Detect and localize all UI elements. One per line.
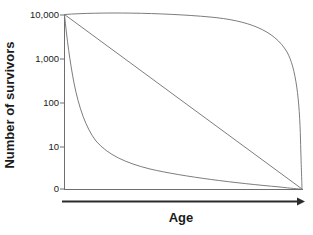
chart-canvas: Number of survivors 10,000 1,000 100 10 … — [0, 0, 313, 235]
y-axis-ticks — [60, 15, 64, 189]
y-tick-label-0: 0 — [54, 183, 59, 194]
y-tick-label-10: 10 — [48, 141, 59, 152]
arrow-head-icon — [297, 198, 305, 206]
x-axis-title: Age — [169, 210, 194, 225]
curve-type-ii — [65, 15, 303, 190]
y-tick-label-1000: 1,000 — [35, 53, 59, 64]
survivorship-curve-figure: Number of survivors 10,000 1,000 100 10 … — [0, 0, 313, 235]
y-tick-label-10000: 10,000 — [30, 9, 59, 20]
y-axis-title: Number of survivors — [2, 41, 17, 168]
age-axis-arrow — [62, 198, 305, 206]
y-tick-label-100: 100 — [43, 97, 59, 108]
